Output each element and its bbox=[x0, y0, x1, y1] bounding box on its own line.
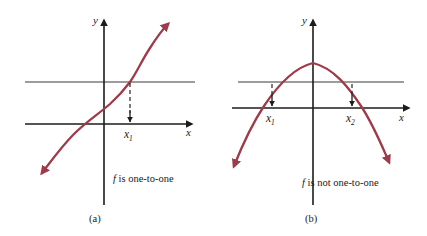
y-axis-label-a: y bbox=[92, 14, 98, 26]
tick-label-b-x1: x1 bbox=[265, 112, 275, 127]
caption-a-text: is one-to-one bbox=[116, 173, 174, 184]
tick-label-a-x1-sub: 1 bbox=[129, 134, 133, 143]
caption-a: f is one-to-one bbox=[113, 173, 174, 184]
one-to-one-figure: y x x1 f is one-to-one (a) y x x bbox=[0, 0, 427, 236]
y-axis-label-b: y bbox=[301, 14, 307, 26]
parabola-curve-b bbox=[234, 63, 389, 166]
x-axis-label-a: x bbox=[185, 126, 191, 138]
x-axis-label-b: x bbox=[398, 111, 404, 123]
increasing-curve-a bbox=[42, 24, 168, 173]
tick-label-b-x2-sub: 2 bbox=[351, 118, 355, 127]
figure-container: y x x1 f is one-to-one (a) y x x bbox=[0, 0, 427, 236]
caption-b: f is not one-to-one bbox=[302, 177, 379, 188]
tick-label-b-x1-sub: 1 bbox=[271, 118, 275, 127]
panel-a: y x x1 f is one-to-one (a) bbox=[25, 14, 195, 225]
caption-b-text: is not one-to-one bbox=[305, 177, 379, 188]
panel-b: y x x1 x2 f is not one-to-one (b) bbox=[232, 14, 409, 225]
panel-label-a: (a) bbox=[89, 213, 101, 225]
tick-label-a-x1: x1 bbox=[123, 128, 133, 143]
panel-label-b: (b) bbox=[305, 213, 318, 225]
tick-label-b-x2: x2 bbox=[345, 112, 355, 127]
